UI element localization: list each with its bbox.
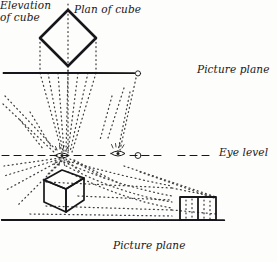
ray-stipple-2 [30,112,52,148]
ray-transfer-mid [78,196,172,200]
ray-stipple-3 [100,96,112,140]
diagram-canvas [0,0,277,262]
construction-rays [3,4,216,219]
ray-converge-1 [40,73,62,152]
label-eye-level: Eye level [219,147,268,159]
ray-fan-1 [64,160,172,186]
label-plan-of-cube: Plan of cube [74,4,141,16]
picture-plane-line-top [4,73,134,74]
label-picture-plane-bottom: Picture plane [113,240,185,252]
ray-outer-left-1 [5,96,58,152]
ray-outer-left-2 [3,104,56,154]
eye-symbol-right [111,144,125,157]
ray-transfer-low [46,206,172,210]
cube-face-left [44,180,66,212]
ray-transfer-base [30,214,172,216]
label-picture-plane-top: Picture plane [197,64,269,76]
ray-fan-2 [64,162,172,196]
perspective-diagram: Plan of cube Picture plane Eye level Ele… [0,0,277,262]
ray-eye-left-2 [4,159,60,176]
ray-converge-7 [72,73,96,152]
ray-to-elev-top [124,166,216,197]
ray-pp-marker-to-eye [120,78,136,150]
picture-plane-marker-circle [135,71,140,76]
